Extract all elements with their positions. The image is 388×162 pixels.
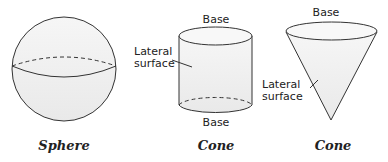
cone-base-label: Base	[313, 6, 340, 19]
cylinder-caption: Cone	[198, 138, 235, 153]
cylinder-lateral-label-2: surface	[134, 57, 175, 70]
cone-caption: Cone	[315, 138, 352, 153]
cone-lateral-label-2: surface	[262, 90, 303, 103]
cone-figure	[286, 22, 377, 120]
cylinder-figure	[172, 27, 252, 113]
cylinder-top-base-label: Base	[203, 13, 230, 26]
cylinder-bottom-base-label: Base	[203, 116, 230, 129]
sphere-caption: Sphere	[38, 138, 89, 153]
solids-diagram: Sphere Base Base Lateral surface Cone Ba…	[0, 0, 388, 162]
sphere-figure	[12, 17, 116, 121]
